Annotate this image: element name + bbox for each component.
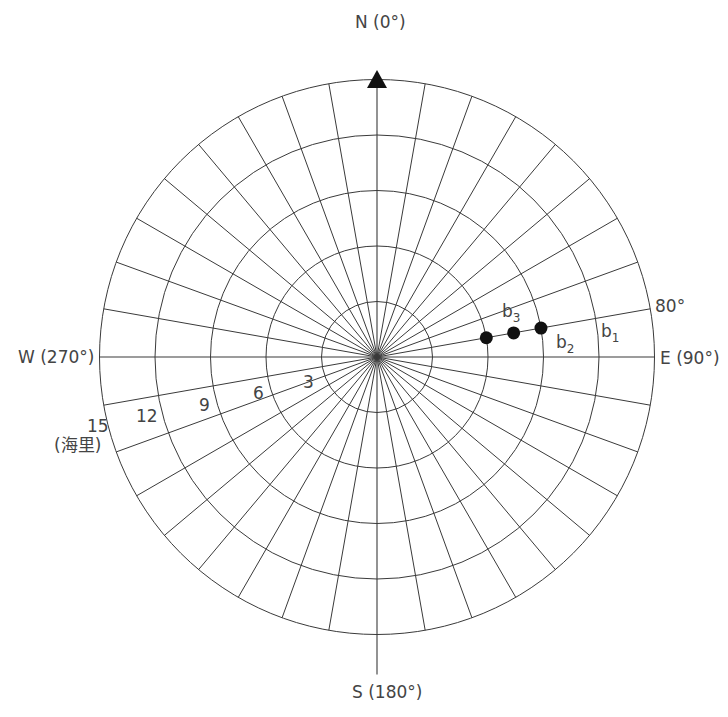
point-b2-sub: 2 <box>567 342 575 356</box>
bearing-80-label: 80° <box>655 298 685 315</box>
range-unit-label: (海里) <box>54 437 101 454</box>
point-b1-name: b <box>601 321 612 341</box>
point-label-b1: b1 <box>601 323 619 340</box>
point-label-b3: b3 <box>502 303 520 320</box>
spoke-230 <box>164 357 377 535</box>
point-b3-sub: 3 <box>513 311 521 325</box>
spoke-320 <box>199 144 377 357</box>
spoke-130 <box>377 357 590 535</box>
point-label-b2: b2 <box>556 334 574 351</box>
west-label: W (270°) <box>18 349 94 366</box>
range-label-9: 9 <box>199 397 210 414</box>
south-label: S (180°) <box>352 684 422 701</box>
point-b2-name: b <box>556 332 567 352</box>
range-label-15: 15 <box>87 418 109 435</box>
spoke-310 <box>164 179 377 357</box>
east-label: E (90°) <box>660 350 720 367</box>
spoke-220 <box>199 357 377 570</box>
range-label-12: 12 <box>136 408 158 425</box>
point-b1 <box>534 322 547 335</box>
range-label-6: 6 <box>253 385 264 402</box>
point-b1-sub: 1 <box>612 331 620 345</box>
point-b2 <box>507 326 520 339</box>
spoke-140 <box>377 357 555 570</box>
range-label-3: 3 <box>303 374 314 391</box>
spoke-40 <box>377 144 555 357</box>
point-b3-name: b <box>502 301 513 321</box>
north-label: N (0°) <box>355 14 406 31</box>
spoke-50 <box>377 179 590 357</box>
point-b3 <box>480 331 493 344</box>
cardinal-axes <box>100 85 655 675</box>
polar-plot <box>0 0 728 717</box>
north-arrow-icon <box>367 70 387 88</box>
